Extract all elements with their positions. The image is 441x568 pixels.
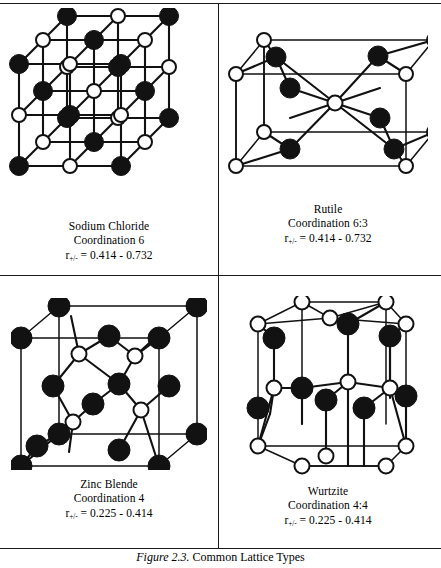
lattice-radius-ratio: r+/- = 0.225 - 0.414 <box>0 506 218 521</box>
atom-filled <box>82 393 104 415</box>
ratio-value: = 0.225 - 0.414 <box>80 507 152 519</box>
zinc-blende-diagram <box>11 298 207 470</box>
table-bottom-rule <box>0 548 441 549</box>
caption-rutile: Rutile Coordination 6:3 r+/- = 0.414 - 0… <box>219 202 437 245</box>
atom-filled <box>85 31 104 50</box>
lattice-cell-sodium-chloride: Sodium Chloride Coordination 6 r+/- = 0.… <box>0 4 218 275</box>
figure-common-lattice-types: Sodium Chloride Coordination 6 r+/- = 0.… <box>0 0 441 568</box>
atom-filled <box>10 55 29 74</box>
atom-filled <box>148 327 170 349</box>
atom-filled <box>160 8 179 26</box>
atom-open <box>162 60 176 74</box>
atom-open <box>229 159 243 173</box>
lattice-cell-rutile: Rutile Coordination 6:3 r+/- = 0.414 - 0… <box>219 4 437 275</box>
atom-open <box>63 159 77 173</box>
atom-open <box>399 439 414 454</box>
atom-filled <box>186 298 207 317</box>
atom-open <box>134 403 149 418</box>
atom-filled <box>42 375 64 397</box>
ratio-subscript: +/- <box>69 511 77 520</box>
lattice-coordination: Coordination 4:4 <box>219 498 437 512</box>
lattice-coordination: Coordination 4 <box>0 491 218 505</box>
atom-filled <box>370 108 390 128</box>
ratio-value: = 0.225 - 0.414 <box>299 514 371 526</box>
atom-open <box>328 96 343 111</box>
atom-filled <box>108 439 130 461</box>
atom-open <box>36 135 50 149</box>
rutile-atoms <box>229 33 428 173</box>
atom-filled <box>315 389 337 411</box>
lattice-name: Zinc Blende <box>0 477 218 491</box>
atom-filled <box>186 423 207 445</box>
atom-filled <box>61 106 80 125</box>
atom-filled <box>58 8 77 26</box>
atom-open <box>267 381 282 396</box>
lattice-name: Wurtzite <box>219 484 437 498</box>
atom-filled <box>266 47 286 67</box>
atom-open <box>323 311 338 326</box>
atom-open <box>295 459 310 474</box>
atom-open <box>111 9 125 23</box>
atom-filled <box>26 435 48 457</box>
atom-open <box>251 317 266 332</box>
ratio-subscript: +/- <box>288 518 296 527</box>
atom-open <box>87 84 101 98</box>
atom-open <box>114 108 128 122</box>
atom-filled <box>148 455 170 470</box>
ratio-value: = 0.414 - 0.732 <box>299 232 371 244</box>
atom-filled <box>337 313 359 335</box>
lattice-radius-ratio: r+/- = 0.414 - 0.732 <box>0 248 218 263</box>
rutile-diagram <box>228 26 428 188</box>
atom-filled <box>247 397 269 419</box>
atom-filled <box>112 55 131 74</box>
atom-filled <box>11 327 32 349</box>
lattice-name: Rutile <box>219 202 437 216</box>
atom-open <box>379 459 394 474</box>
atom-filled <box>48 298 70 317</box>
atom-open <box>399 67 413 81</box>
atom-open <box>319 449 334 464</box>
wurtzite-diagram <box>230 296 426 478</box>
atom-filled <box>280 139 300 159</box>
caption-wurtzite: Wurtzite Coordination 4:4 r+/- = 0.225 -… <box>219 484 437 527</box>
lattice-radius-ratio: r+/- = 0.225 - 0.414 <box>219 513 437 528</box>
sodium-chloride-diagram <box>9 8 209 213</box>
atom-open <box>427 33 428 47</box>
atom-open <box>72 347 87 362</box>
atom-open <box>257 125 271 139</box>
lattice-coordination: Coordination 6 <box>0 233 218 247</box>
atom-filled <box>291 377 313 399</box>
atom-filled <box>384 139 404 159</box>
lattice-cell-zinc-blende: Zinc Blende Coordination 4 r+/- = 0.225 … <box>0 276 218 548</box>
lattice-radius-ratio: r+/- = 0.414 - 0.732 <box>219 231 437 246</box>
atom-open <box>399 159 413 173</box>
atom-open <box>379 296 394 310</box>
atom-filled <box>34 82 53 101</box>
atom-open <box>341 375 356 390</box>
lattice-coordination: Coordination 6:3 <box>219 216 437 230</box>
atom-open <box>63 57 77 71</box>
ratio-value: = 0.414 - 0.732 <box>80 249 152 261</box>
atom-open <box>66 415 81 430</box>
ratio-subscript: +/- <box>69 253 77 262</box>
lattice-name: Sodium Chloride <box>0 219 218 233</box>
atom-open <box>229 67 243 81</box>
caption-sodium-chloride: Sodium Chloride Coordination 6 r+/- = 0.… <box>0 219 218 262</box>
atom-open <box>138 135 152 149</box>
lattice-cell-wurtzite: Wurtzite Coordination 4:4 r+/- = 0.225 -… <box>219 276 437 548</box>
atom-open <box>295 296 310 310</box>
atom-open <box>399 317 414 332</box>
atom-filled <box>395 385 417 407</box>
atom-open <box>427 125 428 139</box>
figure-caption: Figure 2.3. Common Lattice Types <box>0 550 441 565</box>
atom-open <box>138 33 152 47</box>
zinc-blende-atoms <box>11 298 207 470</box>
atom-filled <box>280 78 300 98</box>
figure-title: Common Lattice Types <box>192 550 304 564</box>
atom-filled <box>160 109 179 128</box>
atom-open <box>251 439 266 454</box>
atom-open <box>36 33 50 47</box>
atom-filled <box>136 82 155 101</box>
atom-open <box>128 349 143 364</box>
atom-filled <box>263 327 285 349</box>
